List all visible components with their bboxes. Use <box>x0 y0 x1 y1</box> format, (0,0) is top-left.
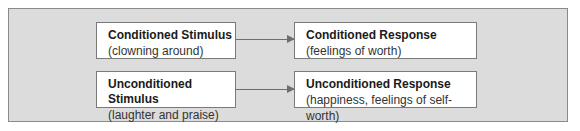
box-title: Conditioned Response <box>306 28 476 43</box>
box-detail: (clowning around) <box>108 43 235 59</box>
box-title: Conditioned Stimulus <box>108 28 235 43</box>
box-title: Unconditioned Stimulus <box>108 77 235 107</box>
conditioned-response-box: Conditioned Response (feelings of worth) <box>294 22 477 59</box>
box-title: Unconditioned Response <box>306 77 476 92</box>
arrow-right-icon <box>236 39 294 40</box>
unconditioned-response-box: Unconditioned Response (happiness, feeli… <box>294 71 477 108</box>
box-detail: (happiness, feelings of self-worth) <box>306 92 476 124</box>
unconditioned-stimulus-box: Unconditioned Stimulus (laughter and pra… <box>96 71 236 108</box>
diagram-panel <box>8 8 568 122</box>
conditioned-stimulus-box: Conditioned Stimulus (clowning around) <box>96 22 236 59</box>
arrow-right-icon <box>236 89 294 90</box>
box-detail: (laughter and praise) <box>108 107 235 123</box>
box-detail: (feelings of worth) <box>306 43 476 59</box>
